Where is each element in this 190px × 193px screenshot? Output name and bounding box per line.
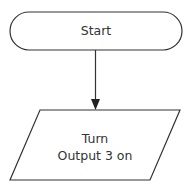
start-label: Start xyxy=(10,23,182,39)
output-label: Output 3 on xyxy=(10,148,180,164)
arrowhead-icon xyxy=(91,99,100,110)
turn-label: Turn xyxy=(10,131,180,147)
